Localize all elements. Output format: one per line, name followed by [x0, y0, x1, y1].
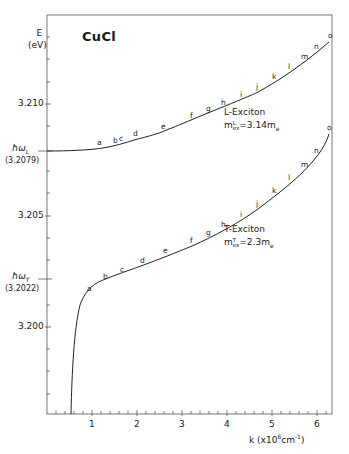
svg-text:f: f [190, 111, 193, 120]
x-tick-3: 3 [179, 419, 185, 429]
plot-frame [47, 15, 332, 414]
svg-text:i: i [240, 90, 242, 99]
y-axis-symbol: E [32, 27, 47, 39]
hw-l-sub: L [26, 148, 29, 155]
hw-t-sub: T [26, 276, 30, 283]
l-exciton-mass: mLex=3.14me [224, 119, 279, 135]
svg-text:j: j [255, 199, 258, 208]
svg-text:a: a [87, 284, 92, 293]
hw-t-symbol: ħω [12, 271, 26, 281]
svg-text:o: o [328, 31, 333, 40]
x-axis-ticks [56, 410, 326, 416]
y-tick-3210: 3.210 [18, 98, 44, 108]
svg-text:g: g [206, 104, 211, 113]
x-tick-5: 5 [269, 419, 275, 429]
svg-text:n: n [314, 42, 319, 51]
chart-title: CuCl [82, 29, 116, 44]
svg-text:c: c [120, 265, 124, 274]
svg-text:k: k [272, 186, 277, 195]
y-axis-unit: (eV) [28, 39, 47, 51]
y-tick-3205: 3.205 [18, 210, 44, 220]
hw-l-value: (3.2079) [5, 156, 39, 165]
svg-text:c: c [119, 134, 123, 143]
l-exciton-label: L-Exciton mLex=3.14me [224, 106, 279, 135]
svg-text:d: d [140, 256, 145, 265]
t-exciton-label: T-Exciton mTex=2.3me [224, 223, 274, 252]
hw-t-value: (3.2022) [5, 284, 39, 293]
svg-text:i: i [240, 210, 242, 219]
svg-text:o: o [327, 123, 332, 132]
svg-text:l: l [288, 62, 290, 71]
t-exciton-point-labels: a b c d e f g h i j k l m n o [87, 123, 332, 293]
svg-text:g: g [206, 228, 211, 237]
svg-text:b: b [103, 272, 108, 281]
hw-l-marker: ħωL [12, 143, 29, 155]
l-exciton-curve [47, 42, 329, 151]
x-axis-label: k (x106cm-1) [249, 433, 304, 445]
y-tick-3200: 3.200 [18, 321, 44, 331]
svg-text:f: f [190, 236, 193, 245]
t-exciton-name: T-Exciton [224, 223, 274, 236]
svg-text:e: e [163, 246, 168, 255]
svg-text:d: d [133, 129, 138, 138]
l-exciton-point-labels: a b c d e f g h i j k l m n o [97, 31, 333, 147]
x-tick-1: 1 [89, 419, 95, 429]
y-axis-label: E (eV) [32, 27, 47, 51]
svg-text:m: m [301, 160, 308, 169]
svg-text:e: e [161, 122, 166, 131]
hw-t-marker: ħωT [12, 271, 29, 283]
svg-text:a: a [97, 138, 102, 147]
l-exciton-name: L-Exciton [224, 106, 279, 119]
x-tick-6: 6 [314, 419, 320, 429]
hw-l-symbol: ħω [12, 143, 26, 153]
x-tick-4: 4 [224, 419, 230, 429]
chart: a b c d e f g h i j k l m n o a b c d e … [0, 0, 349, 454]
svg-text:k: k [272, 72, 277, 81]
t-exciton-curve [71, 134, 329, 414]
svg-text:l: l [288, 173, 290, 182]
x-tick-2: 2 [134, 419, 140, 429]
svg-text:m: m [301, 52, 308, 61]
svg-text:n: n [314, 146, 319, 155]
t-exciton-mass: mTex=2.3me [224, 236, 274, 252]
svg-text:j: j [255, 82, 258, 91]
svg-text:b: b [113, 136, 118, 145]
